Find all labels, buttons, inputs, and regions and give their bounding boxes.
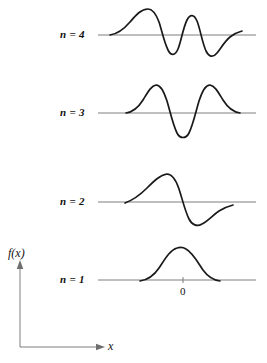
curve-n2	[125, 174, 233, 225]
origin-label: 0	[180, 285, 186, 297]
row-label-n3-text: n = 3	[60, 106, 85, 118]
arrow-right-icon	[96, 344, 105, 351]
row-label-n1-text: n = 1	[60, 273, 85, 285]
plot-row-n1	[98, 247, 256, 283]
curve-n4	[110, 9, 242, 56]
plot-row-n2	[98, 174, 256, 225]
curve-n3	[126, 85, 240, 138]
wavefunction-figure: n = 4 n = 3 n = 2 n = 1 0 f(x) x	[0, 0, 267, 363]
plot-row-n4	[98, 9, 256, 56]
curve-n1	[140, 247, 220, 281]
row-label-n1: n = 1	[60, 273, 85, 285]
arrow-up-icon	[17, 260, 24, 269]
row-label-n2: n = 2	[60, 195, 85, 207]
figure-canvas	[0, 0, 267, 363]
row-label-n4: n = 4	[60, 28, 85, 40]
x-axis-label: x	[108, 339, 113, 354]
row-label-n2-text: n = 2	[60, 195, 85, 207]
row-label-n4-text: n = 4	[60, 28, 85, 40]
plot-row-n3	[98, 85, 256, 138]
axis-corner-line	[20, 268, 97, 347]
y-axis-label: f(x)	[8, 246, 25, 261]
row-label-n3: n = 3	[60, 106, 85, 118]
